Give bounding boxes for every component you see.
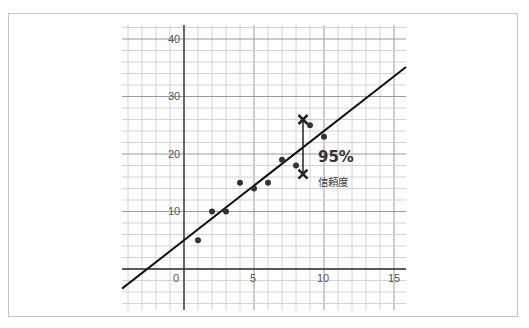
y-tick-20: 20	[168, 148, 180, 160]
x-tick-5: 5	[250, 272, 256, 284]
x-tick-10: 10	[317, 272, 329, 284]
data-point	[209, 209, 215, 215]
data-point	[321, 134, 327, 140]
grid-lines	[122, 25, 406, 310]
confidence-percent-label: 95%	[318, 148, 354, 166]
x-tick-0: 0	[173, 272, 179, 284]
regression-line-path	[122, 67, 406, 289]
axes	[122, 25, 406, 310]
data-point	[279, 157, 285, 163]
x-tick-15: 15	[388, 272, 400, 284]
confidence-interval	[299, 115, 308, 179]
scatter-plot: 0 5 10 15 10 20 30 40 95% 信頼度	[0, 0, 529, 328]
confidence-label: 信頼度	[318, 176, 349, 188]
regression-line	[122, 67, 406, 289]
y-tick-10: 10	[168, 205, 180, 217]
y-tick-40: 40	[168, 33, 180, 45]
data-point	[251, 186, 257, 192]
data-point	[237, 180, 243, 186]
data-point	[265, 180, 271, 186]
data-points	[195, 122, 327, 243]
y-tick-30: 30	[168, 90, 180, 102]
data-point	[223, 209, 229, 215]
data-point	[195, 237, 201, 243]
data-point	[293, 163, 299, 169]
